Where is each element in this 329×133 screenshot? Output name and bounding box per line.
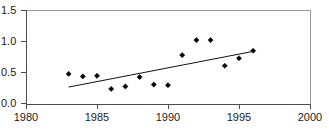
data-point bbox=[236, 56, 241, 61]
x-tick-label-1985: 1985 bbox=[85, 111, 109, 123]
y-tick-label-1.0: 1.0 bbox=[1, 35, 16, 47]
y-tick-label-1.5: 1.5 bbox=[1, 4, 16, 16]
x-tick-label-1990: 1990 bbox=[156, 111, 180, 123]
data-point bbox=[222, 63, 227, 68]
data-point bbox=[180, 53, 185, 58]
scatter-chart: 1.5 1.0 0.5 0.0 1980 1985 1990 1995 2000 bbox=[0, 0, 329, 133]
x-tick-label-1980: 1980 bbox=[14, 111, 38, 123]
data-point bbox=[165, 83, 170, 88]
data-points-group bbox=[66, 37, 256, 91]
data-point bbox=[208, 37, 213, 42]
data-point bbox=[194, 37, 199, 42]
data-point bbox=[66, 71, 71, 76]
y-tick-label-0.5: 0.5 bbox=[1, 66, 16, 78]
data-point bbox=[251, 48, 256, 53]
data-point bbox=[94, 73, 99, 78]
trend-line bbox=[69, 51, 254, 87]
plot-frame bbox=[26, 10, 310, 104]
data-point bbox=[137, 74, 142, 79]
x-tick-label-2000: 2000 bbox=[298, 111, 322, 123]
chart-canvas: 1.5 1.0 0.5 0.0 1980 1985 1990 1995 2000 bbox=[0, 0, 329, 133]
data-point bbox=[123, 84, 128, 89]
x-tick-label-1995: 1995 bbox=[227, 111, 251, 123]
y-tick-label-0.0: 0.0 bbox=[1, 97, 16, 109]
data-point bbox=[151, 82, 156, 87]
data-point bbox=[109, 86, 114, 91]
data-point bbox=[80, 74, 85, 79]
